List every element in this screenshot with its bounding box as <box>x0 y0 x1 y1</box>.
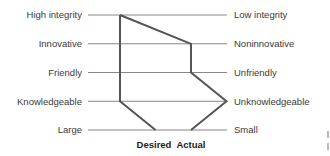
right-label: Noninnovative <box>234 38 294 49</box>
right-label: Unfriendly <box>234 67 277 78</box>
legend-actual: Actual <box>176 139 205 150</box>
right-label: Low integrity <box>234 9 288 20</box>
left-label: Friendly <box>48 67 82 78</box>
left-label: Large <box>58 124 82 135</box>
edge-mark <box>327 131 329 138</box>
edge-mark <box>327 143 329 150</box>
left-label: Innovative <box>39 38 82 49</box>
right-label: Small <box>234 124 258 135</box>
left-label: Knowledgeable <box>17 96 82 107</box>
semantic-differential-chart: High integrityLow integrityInnovativeNon… <box>0 0 330 156</box>
right-label: Unknowledgeable <box>234 96 310 107</box>
legend-desired: Desired <box>137 139 172 150</box>
left-label: High integrity <box>27 9 83 20</box>
